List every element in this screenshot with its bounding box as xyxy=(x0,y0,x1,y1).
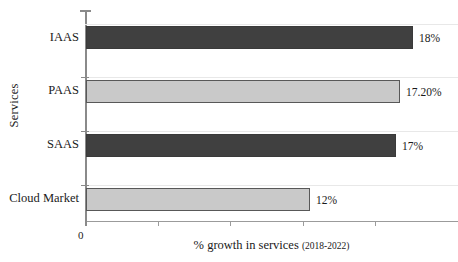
bar-chart: Services IAAS PAAS SAAS Cloud Market 18%… xyxy=(0,0,458,262)
x-axis-tick-label-zero: 0 xyxy=(78,229,84,241)
y-axis-tick-2 xyxy=(81,131,89,132)
x-axis-title-period: (2018-2022) xyxy=(302,241,350,251)
y-axis-tick-3 xyxy=(81,185,89,186)
value-label-paas: 17.20% xyxy=(406,87,441,99)
y-axis-tick-1 xyxy=(81,77,89,78)
x-axis-title: % growth in services (2018-2022) xyxy=(85,238,458,253)
value-label-iaas: 18% xyxy=(419,33,440,45)
x-axis-tick-4 xyxy=(375,221,376,226)
x-axis-tick-1 xyxy=(158,221,159,226)
bar-saas[interactable] xyxy=(86,134,396,157)
value-label-saas: 17% xyxy=(402,141,423,153)
x-axis-tick-0 xyxy=(85,214,87,226)
y-tick-label-cloud-market: Cloud Market xyxy=(0,192,85,205)
plot-area: 18% 17.20% 17% 12% xyxy=(85,10,458,222)
x-axis-tick-3 xyxy=(303,221,304,226)
y-axis-tick-top xyxy=(80,10,91,12)
x-axis-title-main: % growth in services xyxy=(194,238,302,252)
y-axis-tick-labels: IAAS PAAS SAAS Cloud Market xyxy=(0,0,85,262)
gridline-1 xyxy=(85,24,458,25)
x-axis-tick-2 xyxy=(230,221,231,226)
bar-paas[interactable] xyxy=(86,80,400,103)
y-tick-label-iaas: IAAS xyxy=(0,31,85,44)
bar-iaas[interactable] xyxy=(86,26,413,49)
bar-cloud-market[interactable] xyxy=(86,188,310,211)
y-tick-label-paas: PAAS xyxy=(0,84,85,97)
gridline-4 xyxy=(85,185,458,186)
x-axis-spine xyxy=(85,221,458,222)
gridline-3 xyxy=(85,131,458,132)
value-label-cloud-market: 12% xyxy=(316,195,337,207)
gridline-2 xyxy=(85,77,458,78)
y-tick-label-saas: SAAS xyxy=(0,138,85,151)
